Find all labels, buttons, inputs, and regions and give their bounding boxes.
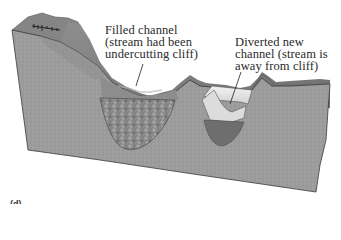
- diverted-channel-label: Diverted newchannel (stream isaway from …: [235, 36, 328, 72]
- filled-channel-label-line3: undercutting cliff): [105, 48, 198, 60]
- filled-channel-label: Filled channel(stream had beenundercutti…: [105, 24, 198, 60]
- filled-channel-leader: [136, 64, 143, 86]
- figure-caption-cutoff: (d) ...: [10, 199, 32, 204]
- diverted-channel-label-line3: away from cliff): [235, 60, 328, 72]
